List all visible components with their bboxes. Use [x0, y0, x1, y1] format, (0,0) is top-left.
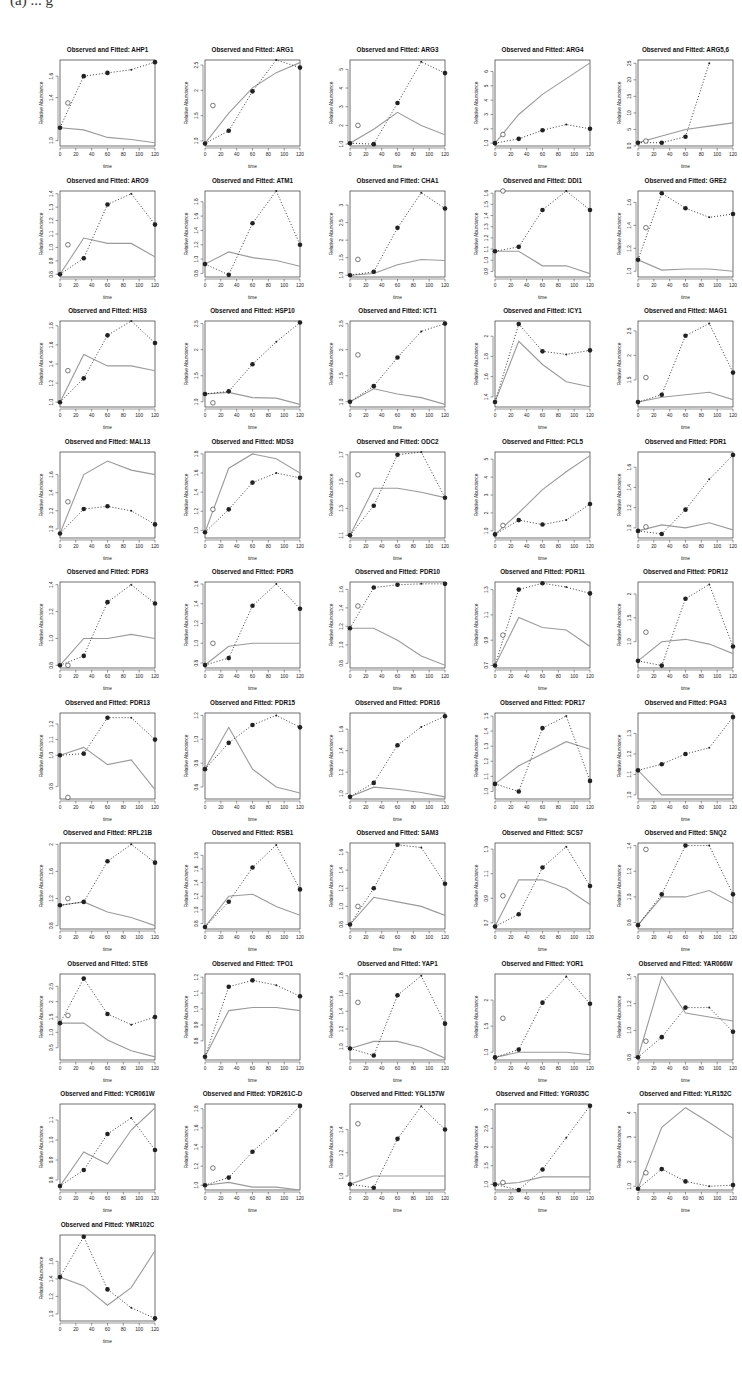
svg-text:100: 100 — [280, 413, 288, 418]
observed-point — [250, 978, 255, 983]
svg-text:120: 120 — [441, 674, 449, 679]
svg-text:100: 100 — [570, 1066, 578, 1071]
observed-point — [588, 884, 593, 889]
svg-text:1.4: 1.4 — [194, 226, 199, 233]
svg-text:40: 40 — [234, 1196, 240, 1201]
svg-text:100: 100 — [713, 1196, 721, 1201]
svg-text:60: 60 — [683, 935, 689, 940]
y-axis-label: Relative Abundance — [329, 212, 334, 255]
panel-title: Observed and Fitted: PDR3 — [67, 568, 149, 575]
fitted-line — [205, 894, 300, 927]
fitted-line — [495, 617, 590, 665]
svg-text:1.2: 1.2 — [49, 1292, 54, 1299]
observed-point — [420, 191, 422, 193]
svg-text:100: 100 — [713, 674, 721, 679]
y-axis-label: Relative Abundance — [474, 1125, 479, 1168]
svg-text:0: 0 — [494, 1066, 497, 1071]
svg-text:2: 2 — [484, 511, 489, 514]
chart-panel-odc2: Observed and Fitted: ODC2020406080100120… — [320, 432, 465, 562]
chart-panel-pdr15: Observed and Fitted: PDR1502040608010012… — [175, 693, 320, 823]
svg-text:80: 80 — [266, 805, 272, 810]
y-axis-label: Relative Abundance — [39, 1256, 44, 1299]
observed-point — [443, 713, 448, 718]
fitted-line — [205, 251, 300, 265]
fitted-line — [638, 392, 733, 402]
svg-text:40: 40 — [379, 1196, 385, 1201]
panel-title: Observed and Fitted: PCL5 — [502, 438, 583, 445]
observed-point — [130, 192, 132, 194]
svg-text:80: 80 — [699, 1066, 705, 1071]
svg-text:1.6: 1.6 — [49, 868, 54, 875]
svg-text:100: 100 — [570, 283, 578, 288]
y-axis-label: Relative Abundance — [184, 212, 189, 255]
svg-text:100: 100 — [135, 1066, 143, 1071]
open-point — [501, 894, 506, 899]
open-point — [501, 1180, 506, 1185]
open-point — [356, 257, 361, 262]
observed-point — [659, 761, 664, 766]
svg-text:1.1: 1.1 — [49, 230, 54, 237]
fitted-line — [60, 1250, 155, 1304]
observed-point — [395, 742, 400, 747]
svg-text:120: 120 — [151, 1066, 159, 1071]
svg-text:100: 100 — [570, 1196, 578, 1201]
x-axis-label: time — [393, 686, 402, 691]
plot-frame — [205, 191, 300, 277]
svg-text:2: 2 — [484, 1145, 489, 1148]
observed-point — [250, 722, 255, 727]
svg-text:4: 4 — [627, 1111, 632, 1114]
svg-text:20: 20 — [508, 805, 514, 810]
observed-point — [683, 205, 688, 210]
svg-text:1.4: 1.4 — [194, 879, 199, 886]
svg-text:1.0: 1.0 — [339, 641, 344, 648]
svg-text:60: 60 — [395, 544, 401, 549]
y-axis-label: Relative Abundance — [474, 603, 479, 646]
observed-point — [371, 780, 376, 785]
observed-point — [516, 244, 521, 249]
svg-text:0: 0 — [204, 1196, 207, 1201]
svg-text:40: 40 — [379, 935, 385, 940]
fitted-line — [205, 453, 300, 531]
svg-text:60: 60 — [540, 1066, 546, 1071]
svg-text:40: 40 — [379, 283, 385, 288]
y-axis-label: Relative Abundance — [329, 734, 334, 777]
observed-point — [565, 1137, 567, 1139]
svg-text:40: 40 — [234, 935, 240, 940]
x-axis-label: time — [393, 164, 402, 169]
svg-text:20: 20 — [218, 283, 224, 288]
svg-text:100: 100 — [135, 544, 143, 549]
chart-panel-atm1: Observed and Fitted: ATM1020406080100120… — [175, 171, 320, 301]
chart-panel-tpo1: Observed and Fitted: TPO1020406080100120… — [175, 954, 320, 1084]
observed-line — [205, 1106, 300, 1185]
x-axis-label: time — [248, 425, 257, 430]
observed-point — [105, 600, 110, 605]
svg-text:1.0: 1.0 — [194, 1005, 199, 1012]
observed-point — [636, 768, 641, 773]
observed-point — [58, 1274, 63, 1279]
svg-text:0.8: 0.8 — [49, 270, 54, 277]
observed-point — [565, 124, 567, 126]
open-point — [211, 507, 216, 512]
svg-text:80: 80 — [121, 283, 127, 288]
open-point — [66, 1013, 71, 1018]
observed-point — [708, 1006, 710, 1008]
open-point — [66, 896, 71, 901]
svg-text:100: 100 — [570, 152, 578, 157]
observed-point — [348, 922, 353, 927]
x-axis-label: time — [538, 556, 547, 561]
svg-text:20: 20 — [651, 1066, 657, 1071]
panel-title: Observed and Fitted: PDR13 — [65, 699, 151, 706]
observed-point — [250, 89, 255, 94]
svg-text:2: 2 — [339, 124, 344, 127]
x-axis-label: time — [681, 164, 690, 169]
observed-line — [495, 583, 590, 665]
svg-text:20: 20 — [363, 283, 369, 288]
svg-text:60: 60 — [105, 152, 111, 157]
svg-text:40: 40 — [379, 674, 385, 679]
svg-text:40: 40 — [234, 413, 240, 418]
panel-title: Observed and Fitted: ARG3 — [357, 46, 439, 53]
svg-text:20: 20 — [218, 1066, 224, 1071]
svg-text:1.6: 1.6 — [49, 470, 54, 477]
observed-point — [298, 475, 303, 480]
svg-text:1.4: 1.4 — [339, 1126, 344, 1133]
